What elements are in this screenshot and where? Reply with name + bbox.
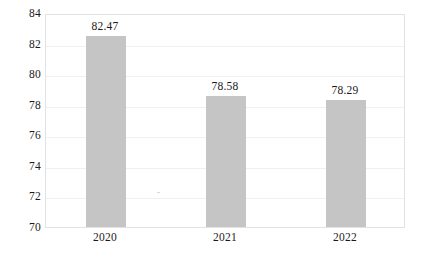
- y-axis-tick-label: 74: [3, 161, 41, 173]
- plot-area: [45, 14, 405, 228]
- y-axis-tick-label: 82: [3, 39, 41, 51]
- y-axis-tick-label: 72: [3, 192, 41, 204]
- bar-2022: [326, 100, 366, 227]
- y-axis-tick-label: 70: [3, 222, 41, 234]
- x-axis-tick-label-2022: 2022: [305, 232, 385, 244]
- x-axis-tick-label-2020: 2020: [65, 232, 145, 244]
- x-axis: 202020212022: [45, 232, 405, 252]
- y-axis-tick-label: 80: [3, 69, 41, 81]
- bar-chart: 8482807876747270 82.4778.5878.29 2020202…: [0, 0, 423, 261]
- y-axis-tick-label: 84: [3, 8, 41, 20]
- bar-2021: [206, 96, 246, 227]
- y-axis: 8482807876747270: [0, 14, 41, 228]
- bar-value-label-2022: 78.29: [305, 85, 385, 97]
- y-axis-tick-label: 76: [3, 131, 41, 143]
- bar-value-label-2021: 78.58: [185, 81, 265, 93]
- image-artifact-speck: [157, 192, 160, 193]
- bar-2020: [86, 36, 126, 227]
- bar-value-label-2020: 82.47: [65, 21, 145, 33]
- x-axis-tick-label-2021: 2021: [185, 232, 265, 244]
- y-axis-tick-label: 78: [3, 100, 41, 112]
